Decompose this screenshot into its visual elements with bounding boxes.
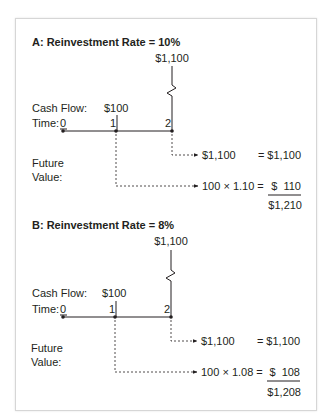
panel-a-final-cash-flow: $1,100 xyxy=(155,52,189,64)
panel-a-title: A: Reinvestment Rate = 10% xyxy=(32,36,180,48)
panel-b-time-label: Time: xyxy=(32,303,59,315)
panel-b-title: B: Reinvestment Rate = 8% xyxy=(32,219,174,231)
panel-a-cash-flow-label: Cash Flow: xyxy=(32,102,87,114)
panel-a-row1-left: $1,100 xyxy=(202,149,236,161)
panel-a-row2-left: 100 × 1.10 = xyxy=(202,180,264,192)
panel-b-final-cash-flow: $1,100 xyxy=(154,235,188,247)
panel-a-cash-flow-value: $100 xyxy=(104,102,128,114)
panel-b-arrow-row1 xyxy=(171,320,197,341)
panel-a-dot-2 xyxy=(170,129,174,133)
panel-a-row1-right: = $1,100 xyxy=(258,149,301,161)
panel-b-fv-label-1: Future xyxy=(31,342,63,354)
panel-a-time-0: 0 xyxy=(60,117,66,129)
panel-a-dot-0 xyxy=(61,129,65,133)
panel-b-total: $1,208 xyxy=(267,386,301,398)
panel-b-row1-right: = $1,100 xyxy=(257,335,300,347)
panel-a-time-label: Time: xyxy=(32,117,59,129)
panel-b-dot-0 xyxy=(61,315,65,319)
panel-b-cash-flow-label: Cash Flow: xyxy=(32,287,87,299)
panel-b-dot-2 xyxy=(169,315,173,319)
panel-a-total: $1,210 xyxy=(268,199,302,211)
panel-b-row1-left: $1,100 xyxy=(201,335,235,347)
panel-b-time-2: 2 xyxy=(164,303,170,315)
panel-a-row2-right: $ 110 xyxy=(271,180,301,192)
panel-a-arrow-row1 xyxy=(172,134,198,155)
panel-b-row2-left: 100 × 1.08 = xyxy=(201,366,263,378)
panel-b-row2-right: $ 108 xyxy=(269,366,300,378)
panel-b-time-1: 1 xyxy=(109,303,115,315)
reinvestment-diagram: A: Reinvestment Rate = 10% $1,100 Cash F… xyxy=(0,0,327,414)
panel-b: B: Reinvestment Rate = 8% $1,100 Cash Fl… xyxy=(31,219,301,398)
panel-b-fv-label-2: Value: xyxy=(31,356,61,368)
panel-b-dot-1 xyxy=(113,315,117,319)
panel-a-fv-label-1: Future xyxy=(32,157,64,169)
panel-a-fv-label-2: Value: xyxy=(32,171,62,183)
panel-a-time-1: 1 xyxy=(110,117,116,129)
panel-a-time-2: 2 xyxy=(165,117,171,129)
panel-a-dot-1 xyxy=(114,129,118,133)
panel-a: A: Reinvestment Rate = 10% $1,100 Cash F… xyxy=(32,36,302,211)
panel-b-cash-flow-value: $100 xyxy=(102,287,126,299)
panel-a-arrow-row2 xyxy=(116,134,198,186)
panel-b-arrow-row2 xyxy=(115,320,197,372)
panel-b-time-0: 0 xyxy=(60,303,66,315)
